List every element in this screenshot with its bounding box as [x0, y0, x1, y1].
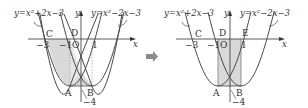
- right-equation-2: y=x²−2x−3: [239, 8, 290, 18]
- right-tick-neg3: −3: [185, 40, 199, 50]
- left-tick-neg1: −1: [59, 40, 72, 50]
- left-figure: y=x²+2x−3 y=x²−2x−3 y x C D −3 −1 O 1 A …: [13, 8, 141, 107]
- right-tick-neg4: −4: [232, 97, 246, 107]
- arrow-right-icon: [146, 51, 158, 62]
- left-tick-pos1: 1: [92, 40, 98, 50]
- right-point-d: D: [219, 28, 226, 38]
- right-x-label: x: [282, 39, 287, 49]
- right-figure: y=x²+2x−3 y=x²−2x−3 y x C D E −3 −1 O 1 …: [163, 8, 290, 107]
- right-tick-neg1: −1: [207, 40, 220, 50]
- left-tick-neg4: −4: [83, 97, 97, 107]
- right-point-e: E: [242, 28, 249, 38]
- right-point-c: C: [195, 29, 202, 39]
- right-tick-pos1: 1: [241, 40, 247, 50]
- left-y-label: y: [74, 8, 80, 18]
- left-point-c: C: [46, 29, 53, 39]
- left-point-d: D: [71, 28, 78, 38]
- left-point-a: A: [64, 88, 72, 98]
- left-equation-2: y=x²−2x−3: [90, 8, 141, 18]
- left-origin: O: [72, 40, 79, 50]
- right-y-label: y: [223, 8, 229, 18]
- right-origin: O: [220, 40, 227, 50]
- left-eq2-pointer: [118, 20, 127, 26]
- left-x-label: x: [133, 39, 138, 49]
- right-point-a: A: [212, 88, 220, 98]
- left-equation-1: y=x²+2x−3: [13, 8, 64, 18]
- left-tick-neg3: −3: [36, 40, 50, 50]
- right-equation-1: y=x²+2x−3: [163, 8, 214, 18]
